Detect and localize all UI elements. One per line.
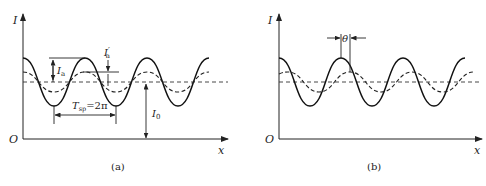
x-axis-label: x <box>474 144 481 157</box>
theta-label: θ <box>342 33 348 44</box>
i0-label: I0 <box>151 108 160 121</box>
panel-b: I x O θ (b) <box>265 14 482 172</box>
y-axis-label: I <box>267 14 273 27</box>
caption-a: (a) <box>111 161 125 172</box>
panel-a: I x O Ia I′a Tsp=2π I0 (a) <box>9 14 228 172</box>
caption-b: (b) <box>367 161 381 172</box>
origin-label: O <box>9 133 18 146</box>
origin-label: O <box>265 133 274 146</box>
period-label: Tsp=2π <box>72 100 108 113</box>
ia-prime-label: I′a <box>103 45 110 60</box>
ia-label: Ia <box>56 65 65 78</box>
y-axis-label: I <box>12 14 18 27</box>
diagram-canvas: I x O Ia I′a Tsp=2π I0 (a) I <box>0 0 486 186</box>
x-axis-label: x <box>218 144 225 157</box>
